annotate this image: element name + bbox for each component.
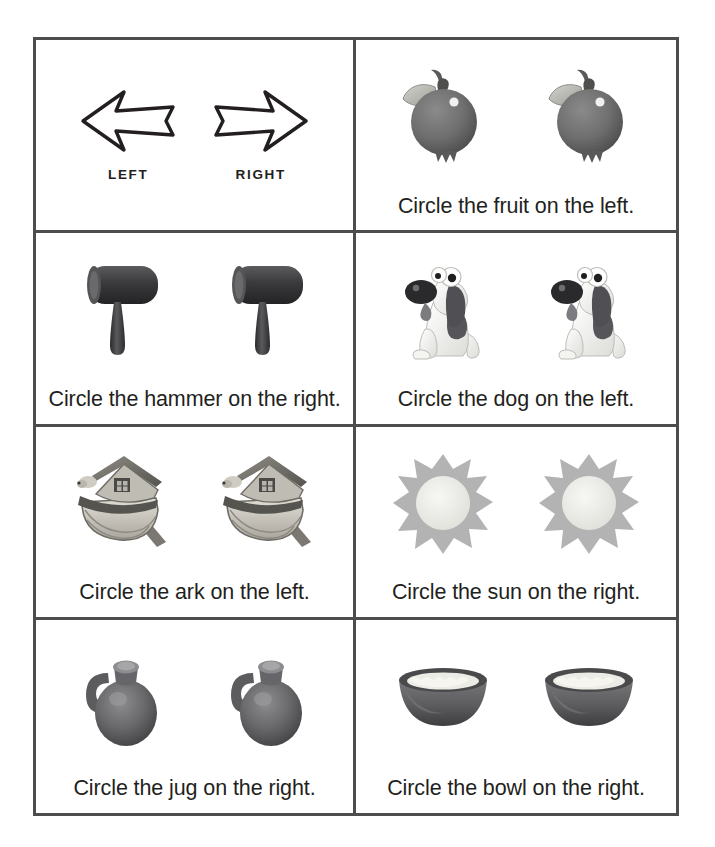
clay-jug-icon [74, 645, 170, 753]
worksheet-cell-jug: Circle the jug on the right. [36, 620, 356, 813]
noahs-ark-icon [211, 454, 323, 554]
legend-arrows: LEFT RIGHT [36, 40, 353, 230]
bowl-option-left[interactable] [376, 660, 510, 738]
clay-bowl-icon [391, 660, 495, 738]
jug-option-left[interactable] [56, 645, 189, 753]
legend-right-group: RIGHT [213, 89, 309, 182]
sun-burst-icon [391, 452, 495, 556]
worksheet-cell-fruit: Circle the fruit on the left. [356, 40, 676, 233]
noahs-ark-icon [66, 454, 178, 554]
worksheet-cell-dog: Circle the dog on the left. [356, 233, 676, 426]
sun-option-left[interactable] [376, 452, 510, 556]
worksheet-cell-ark: Circle the ark on the left. [36, 427, 356, 620]
jug-picture-row [36, 620, 353, 778]
legend-left-group: LEFT [80, 89, 176, 182]
dog-option-right[interactable] [522, 259, 656, 363]
hammer-option-right[interactable] [200, 256, 333, 366]
jug-caption: Circle the jug on the right. [36, 777, 353, 813]
arrow-right-outline-icon [213, 89, 309, 153]
sun-burst-icon [537, 452, 641, 556]
mallet-hammer-icon [219, 256, 315, 366]
clay-jug-icon [219, 645, 315, 753]
clay-bowl-icon [537, 660, 641, 738]
ark-caption: Circle the ark on the left. [36, 581, 353, 617]
fruit-caption: Circle the fruit on the left. [356, 195, 676, 231]
cartoon-dog-icon [537, 259, 641, 363]
hammer-picture-row [36, 233, 353, 388]
worksheet-cell-legend: LEFT RIGHT [36, 40, 356, 233]
cartoon-dog-icon [391, 259, 495, 363]
hammer-option-left[interactable] [56, 256, 189, 366]
dog-option-left[interactable] [376, 259, 510, 363]
dog-caption: Circle the dog on the left. [356, 388, 676, 424]
worksheet-cell-hammer: Circle the hammer on the right. [36, 233, 356, 426]
legend-left-label: LEFT [108, 167, 149, 182]
fruit-picture-row [356, 40, 676, 195]
fruit-option-right[interactable] [522, 65, 656, 169]
bowl-picture-row [356, 620, 676, 778]
mallet-hammer-icon [74, 256, 170, 366]
pomegranate-fruit-icon [391, 65, 495, 169]
bowl-caption: Circle the bowl on the right. [356, 777, 676, 813]
dog-picture-row [356, 233, 676, 388]
sun-caption: Circle the sun on the right. [356, 581, 676, 617]
ark-picture-row [36, 427, 353, 582]
worksheet-cell-bowl: Circle the bowl on the right. [356, 620, 676, 813]
ark-option-left[interactable] [56, 454, 189, 554]
hammer-caption: Circle the hammer on the right. [36, 388, 353, 424]
ark-option-right[interactable] [200, 454, 333, 554]
jug-option-right[interactable] [200, 645, 333, 753]
bowl-option-right[interactable] [522, 660, 656, 738]
worksheet-grid: LEFT RIGHT [33, 37, 679, 816]
pomegranate-fruit-icon [537, 65, 641, 169]
arrow-left-outline-icon [80, 89, 176, 153]
legend-right-label: RIGHT [236, 167, 287, 182]
sun-option-right[interactable] [522, 452, 656, 556]
worksheet-cell-sun: Circle the sun on the right. [356, 427, 676, 620]
sun-picture-row [356, 427, 676, 582]
fruit-option-left[interactable] [376, 65, 510, 169]
